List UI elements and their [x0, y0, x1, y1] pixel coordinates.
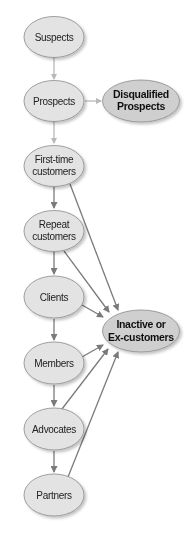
node-clients-label: Clients [40, 292, 69, 303]
node-advocates: Advocates [24, 408, 84, 450]
node-partners-label: Partners [36, 490, 72, 501]
node-prospects-label: Prospects [33, 96, 75, 107]
node-first-time-label-2: customers [32, 166, 76, 177]
node-clients: Clients [24, 276, 84, 318]
node-first-time-customers: First-time customers [24, 146, 84, 187]
node-suspects: Suspects [24, 17, 84, 58]
node-disqualified-prospects: Disqualified Prospects [103, 80, 180, 122]
node-disqualified-label-1: Disqualified [113, 88, 169, 100]
edge-members-inactive [82, 345, 103, 357]
edge-clients-inactive [82, 305, 103, 317]
node-suspects-label: Suspects [35, 32, 74, 43]
node-prospects: Prospects [24, 81, 84, 122]
node-members: Members [24, 342, 84, 384]
node-repeat-customers: Repeat customers [24, 211, 84, 252]
node-inactive-ex-customers: Inactive or Ex-customers [103, 310, 180, 352]
node-advocates-label: Advocates [32, 424, 76, 435]
node-inactive-label-2: Ex-customers [108, 331, 174, 343]
node-inactive-label-1: Inactive or [116, 318, 165, 330]
node-repeat-label-2: customers [32, 231, 76, 242]
node-repeat-label-1: Repeat [39, 219, 70, 230]
node-partners: Partners [24, 474, 84, 516]
node-first-time-label-1: First-time [35, 154, 74, 165]
node-disqualified-label-2: Prospects [117, 100, 166, 112]
customer-lifecycle-diagram: Suspects Prospects Disqualified Prospect… [0, 0, 186, 533]
node-members-label: Members [34, 358, 74, 369]
